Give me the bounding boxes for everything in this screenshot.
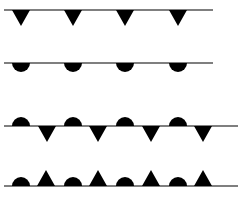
- semicircle-icon: [12, 117, 30, 126]
- semicircle-icon: [12, 63, 30, 72]
- semicircle-icon: [12, 177, 30, 186]
- stationary-front-row: [4, 117, 238, 142]
- triangle-icon: [89, 170, 107, 186]
- semicircle-icon: [116, 117, 134, 126]
- semicircle-icon: [169, 63, 187, 72]
- triangle-icon: [194, 170, 212, 186]
- cold-front-row: [4, 10, 213, 26]
- triangle-icon: [12, 10, 30, 26]
- semicircle-icon: [116, 177, 134, 186]
- triangle-icon: [89, 126, 107, 142]
- semicircle-icon: [116, 63, 134, 72]
- semicircle-icon: [64, 63, 82, 72]
- triangle-icon: [142, 126, 160, 142]
- triangle-icon: [64, 10, 82, 26]
- semicircle-icon: [64, 117, 82, 126]
- triangle-icon: [169, 10, 187, 26]
- triangle-icon: [38, 126, 56, 142]
- semicircle-icon: [169, 177, 187, 186]
- semicircle-icon: [64, 177, 82, 186]
- warm-front-row: [4, 63, 213, 72]
- front-symbols-diagram: [0, 0, 248, 202]
- triangle-icon: [194, 126, 212, 142]
- triangle-icon: [142, 170, 160, 186]
- triangle-icon: [116, 10, 134, 26]
- occluded-front-row: [4, 170, 238, 186]
- semicircle-icon: [169, 117, 187, 126]
- triangle-icon: [37, 170, 55, 186]
